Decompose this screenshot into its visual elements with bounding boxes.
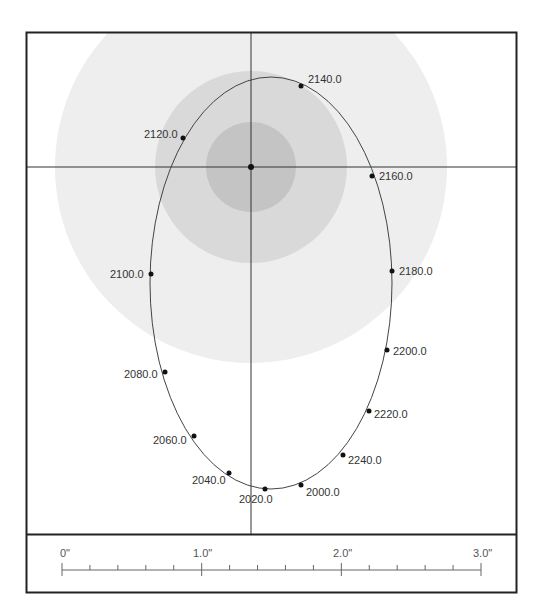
epoch-point-label: 2080.0 <box>124 368 158 380</box>
epoch-point-marker <box>299 483 304 488</box>
epoch-point-label: 2160.0 <box>379 170 413 182</box>
epoch-point-label: 2040.0 <box>192 474 226 486</box>
epoch-point-marker <box>263 487 268 492</box>
epoch-point-label: 2140.0 <box>308 73 342 85</box>
epoch-point-label: 2200.0 <box>393 345 427 357</box>
scale-bar-label: 3.0" <box>473 547 492 559</box>
epoch-point-label: 2060.0 <box>153 434 187 446</box>
epoch-point-label: 2100.0 <box>110 268 144 280</box>
epoch-point-label: 2240.0 <box>348 454 382 466</box>
epoch-point-label: 2000.0 <box>306 486 340 498</box>
epoch-point-marker <box>385 348 390 353</box>
primary-star-marker <box>248 164 254 170</box>
epoch-point-label: 2120.0 <box>144 128 178 140</box>
orbit-diagram: 2000.02020.02040.02060.02080.02100.02120… <box>0 0 539 613</box>
scale-bar-label: 1.0" <box>193 547 212 559</box>
epoch-point-marker <box>370 174 375 179</box>
scale-bar: 0"1.0"2.0"3.0" <box>60 547 492 576</box>
epoch-point-label: 2180.0 <box>399 265 433 277</box>
epoch-point-marker <box>149 272 154 277</box>
epoch-point-marker <box>163 370 168 375</box>
scale-bar-labels: 0"1.0"2.0"3.0" <box>60 547 492 559</box>
epoch-point-marker <box>299 84 304 89</box>
epoch-point-marker <box>227 471 232 476</box>
scale-bar-label: 0" <box>60 547 70 559</box>
epoch-point-marker <box>390 269 395 274</box>
epoch-point-label: 2220.0 <box>374 408 408 420</box>
epoch-point-marker <box>341 453 346 458</box>
epoch-point-label: 2020.0 <box>239 493 273 505</box>
scale-bar-label: 2.0" <box>333 547 352 559</box>
epoch-point-marker <box>192 434 197 439</box>
epoch-point-marker <box>367 409 372 414</box>
epoch-point-marker <box>181 136 186 141</box>
